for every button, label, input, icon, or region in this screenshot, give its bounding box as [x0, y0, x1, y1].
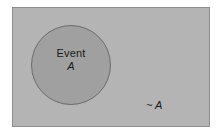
event-label: Event A — [31, 47, 111, 73]
venn-diagram: Event A ~ A — [0, 0, 222, 138]
event-label-symbol: A — [31, 60, 111, 73]
complement-label: ~ A — [146, 98, 162, 112]
event-label-name: Event — [31, 47, 111, 60]
